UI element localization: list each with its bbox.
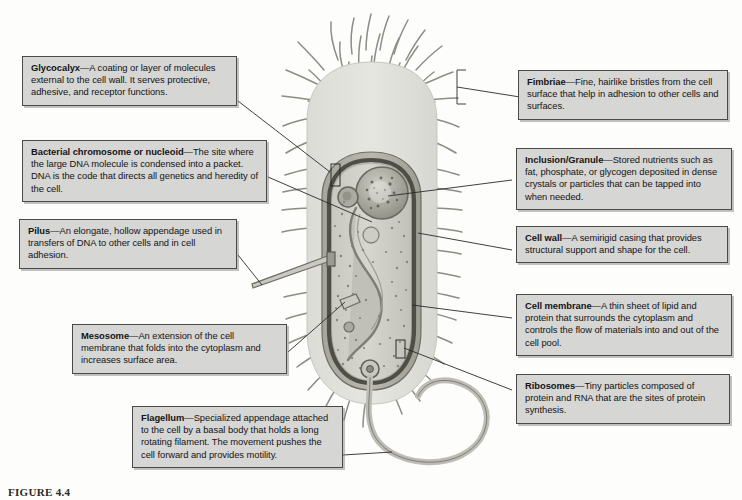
figure-page: Glycocalyx—A coating or layer of molecul… [0, 0, 742, 500]
callout-glycocalyx-term: Glycocalyx [31, 62, 80, 73]
callout-cell-membrane-term: Cell membrane [525, 300, 592, 311]
callout-nucleoid-term: Bacterial chromosome or nucleoid [31, 146, 184, 157]
callout-cell-membrane[interactable]: Cell membrane—A thin sheet of lipid and … [516, 294, 732, 356]
callout-cell-wall[interactable]: Cell wall—A semirigid casing that provid… [516, 226, 728, 263]
granule-small-1 [363, 227, 379, 243]
leader-flagellum [343, 452, 392, 455]
callout-fimbriae[interactable]: Fimbriae—Fine, hairlike bristles from th… [518, 70, 728, 120]
callout-flagellum-term: Flagellum [141, 412, 184, 423]
callout-glycocalyx[interactable]: Glycocalyx—A coating or layer of molecul… [22, 56, 237, 106]
leader-pilus [238, 255, 262, 285]
callout-ribosomes[interactable]: Ribosomes—Tiny particles composed of pro… [516, 374, 730, 424]
granule-small-2 [344, 322, 354, 332]
callout-pilus-text: —An elongate, hollow appendage used in t… [28, 225, 222, 260]
callout-inclusion[interactable]: Inclusion/Granule—Stored nutrients such … [516, 148, 732, 210]
callout-mesosome-term: Mesosome [81, 330, 129, 341]
nucleoid-clear-zone [369, 181, 391, 203]
callout-pilus[interactable]: Pilus—An elongate, hollow appendage used… [19, 219, 237, 269]
inclusion-granule-core [343, 192, 352, 201]
figure-caption: FIGURE 4.4 [8, 486, 70, 498]
callout-mesosome[interactable]: Mesosome—An extension of the cell membra… [72, 324, 287, 374]
pilus-base [327, 252, 335, 266]
callout-pilus-term: Pilus [28, 225, 50, 236]
callout-ribosomes-term: Ribosomes [525, 380, 575, 391]
callout-cell-wall-term: Cell wall [525, 232, 562, 243]
flagellum-basal-body-core [367, 366, 374, 373]
leader-fimbriae [457, 87, 520, 97]
callout-fimbriae-term: Fimbriae [527, 76, 566, 87]
callout-flagellum[interactable]: Flagellum—Specialized appendage attached… [132, 406, 343, 468]
callout-inclusion-term: Inclusion/Granule [525, 154, 603, 165]
callout-nucleoid[interactable]: Bacterial chromosome or nucleoid—The sit… [22, 140, 267, 202]
